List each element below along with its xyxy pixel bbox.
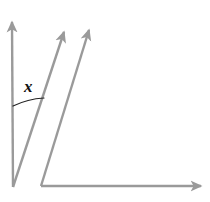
second-transversal-ray bbox=[41, 30, 89, 186]
rays-group bbox=[12, 22, 201, 187]
figure-canvas bbox=[0, 0, 210, 202]
vertical-ray bbox=[12, 22, 13, 187]
geometry-figure: x bbox=[0, 0, 210, 202]
first-transversal-ray bbox=[13, 32, 64, 187]
angle-label-x: x bbox=[24, 78, 33, 95]
